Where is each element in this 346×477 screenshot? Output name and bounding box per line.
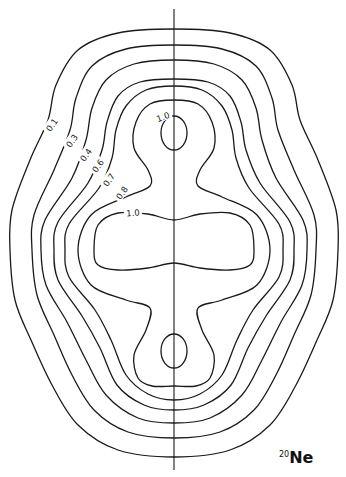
contour-level-label: 1.0 <box>126 207 140 218</box>
element-symbol: Ne <box>289 448 313 467</box>
nucleus-label: 20Ne <box>279 448 313 467</box>
contour-diagram: 0.10.30.40.60.70.81.01.0 <box>0 0 346 477</box>
contour-labels: 0.10.30.40.60.70.81.01.0 <box>42 108 173 218</box>
mass-number: 20 <box>279 450 289 459</box>
